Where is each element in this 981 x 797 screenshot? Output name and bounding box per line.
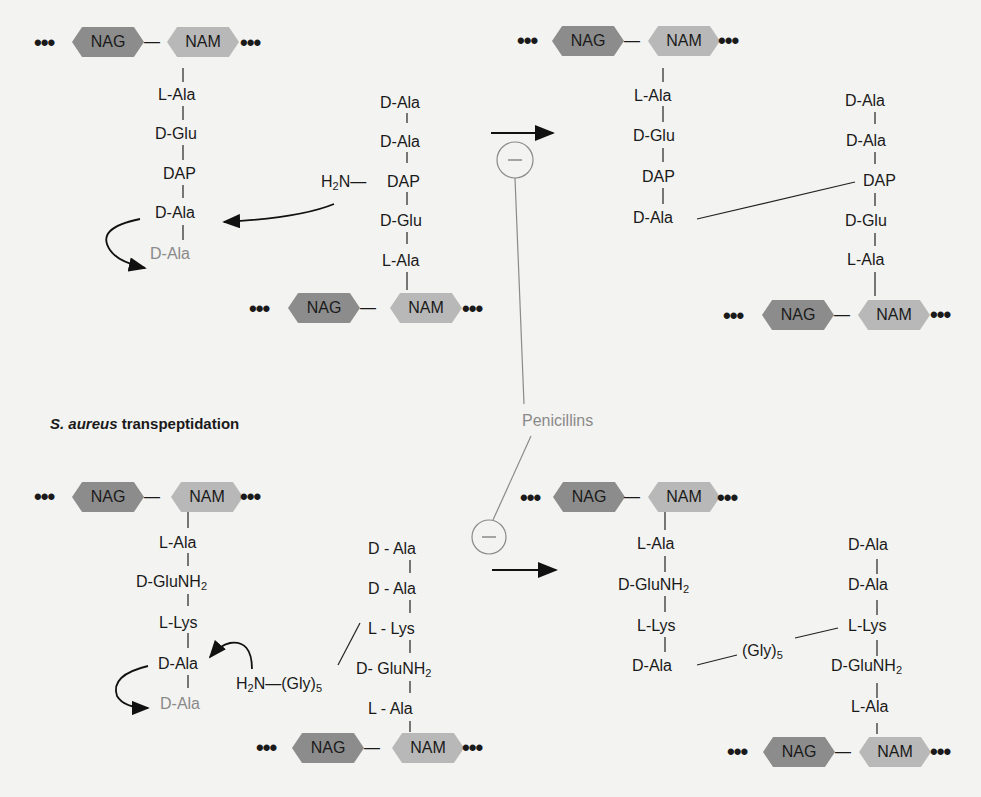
residue: D-Glu [380, 212, 422, 230]
nam-hexagon: NAM [390, 293, 462, 323]
nam-hexagon: NAM [648, 26, 720, 56]
residue: D-GluNH2 [831, 657, 902, 675]
nam-hexagon: NAM [858, 300, 930, 330]
residue: L-Ala [851, 698, 888, 716]
residue: D - Ala [368, 580, 416, 598]
ellipsis: ••• [930, 737, 950, 767]
nag-hexagon: NAG [552, 26, 624, 56]
residue: D-GluNH2 [618, 576, 689, 594]
residue: D-Glu [845, 212, 887, 230]
residue: L-Ala [637, 535, 674, 553]
amine-group: H2N— [321, 173, 366, 191]
residue: D-Ala [846, 132, 886, 150]
residue: D-Ala [845, 92, 885, 110]
nag-hexagon: NAG [553, 482, 625, 512]
residue: DAP [863, 172, 896, 190]
residue: L-Ala [847, 251, 884, 269]
ellipsis: ••• [240, 482, 260, 512]
residue: DAP [387, 173, 420, 191]
residue: L - Ala [368, 700, 413, 718]
glycosidic-bond: — [624, 482, 640, 512]
glycosidic-bond: — [624, 26, 640, 56]
ellipsis: ••• [462, 294, 482, 324]
panel-title: S. aureus transpeptidation [50, 415, 239, 432]
nag-hexagon: NAG [72, 482, 144, 512]
residue: D-Glu [633, 127, 675, 145]
ellipsis: ••• [249, 294, 269, 324]
residue: D-Ala [155, 204, 195, 222]
glycosidic-bond: — [144, 27, 160, 57]
released-residue: D-Ala [160, 695, 200, 713]
ellipsis: ••• [727, 737, 747, 767]
residue: D - Ala [368, 540, 416, 558]
residue: D-Ala [632, 657, 672, 675]
residue: D-Ala [848, 576, 888, 594]
ellipsis: ••• [718, 26, 738, 56]
nag-hexagon: NAG [762, 300, 834, 330]
residue: DAP [642, 168, 675, 186]
residue: DAP [163, 165, 196, 183]
residue: D-Ala [380, 94, 420, 112]
pentaglycine-crosslink: (Gly)5 [742, 642, 783, 660]
penicillins-label: Penicillins [522, 412, 593, 430]
nag-hexagon: NAG [288, 293, 360, 323]
ellipsis: ••• [240, 28, 260, 58]
ellipsis: ••• [256, 733, 276, 763]
species-name: S. aureus [50, 415, 118, 432]
ellipsis: ••• [520, 483, 540, 513]
residue: L-Ala [158, 86, 195, 104]
residue: L - Lys [368, 620, 415, 638]
ellipsis: ••• [930, 300, 950, 330]
residue: D-Ala [380, 133, 420, 151]
nam-hexagon: NAM [167, 27, 239, 57]
ellipsis: ••• [517, 26, 537, 56]
title-rest: transpeptidation [118, 415, 240, 432]
nag-hexagon: NAG [763, 737, 835, 767]
nag-hexagon: NAG [292, 733, 364, 763]
residue: D-Ala [848, 536, 888, 554]
nam-hexagon: NAM [648, 482, 720, 512]
glycosidic-bond: — [364, 733, 380, 763]
glycosidic-bond: — [834, 300, 850, 330]
glycosidic-bond: — [360, 293, 376, 323]
nam-hexagon: NAM [392, 733, 464, 763]
residue: D-Ala [633, 209, 673, 227]
glycosidic-bond: — [835, 737, 851, 767]
residue: D- GluNH2 [356, 660, 431, 678]
residue: L-Ala [159, 534, 196, 552]
ellipsis: ••• [717, 483, 737, 513]
residue: L-Ala [382, 252, 419, 270]
nam-hexagon: NAM [171, 482, 243, 512]
glycosidic-bond: — [144, 482, 160, 512]
pentaglycine-bridge: H2N—(Gly)5 [236, 675, 322, 693]
residue: D-Glu [155, 125, 197, 143]
residue: L-Lys [848, 617, 887, 635]
residue: L-Ala [634, 87, 671, 105]
released-residue: D-Ala [150, 245, 190, 263]
ellipsis: ••• [34, 28, 54, 58]
ellipsis: ••• [34, 482, 54, 512]
nam-hexagon: NAM [859, 737, 931, 767]
residue: L-Lys [159, 614, 198, 632]
residue: D-GluNH2 [136, 573, 207, 591]
ellipsis: ••• [462, 733, 482, 763]
ellipsis: ••• [723, 301, 743, 331]
residue: L-Lys [637, 617, 676, 635]
nag-hexagon: NAG [72, 27, 144, 57]
diagram-lines [0, 0, 981, 797]
residue: D-Ala [158, 655, 198, 673]
